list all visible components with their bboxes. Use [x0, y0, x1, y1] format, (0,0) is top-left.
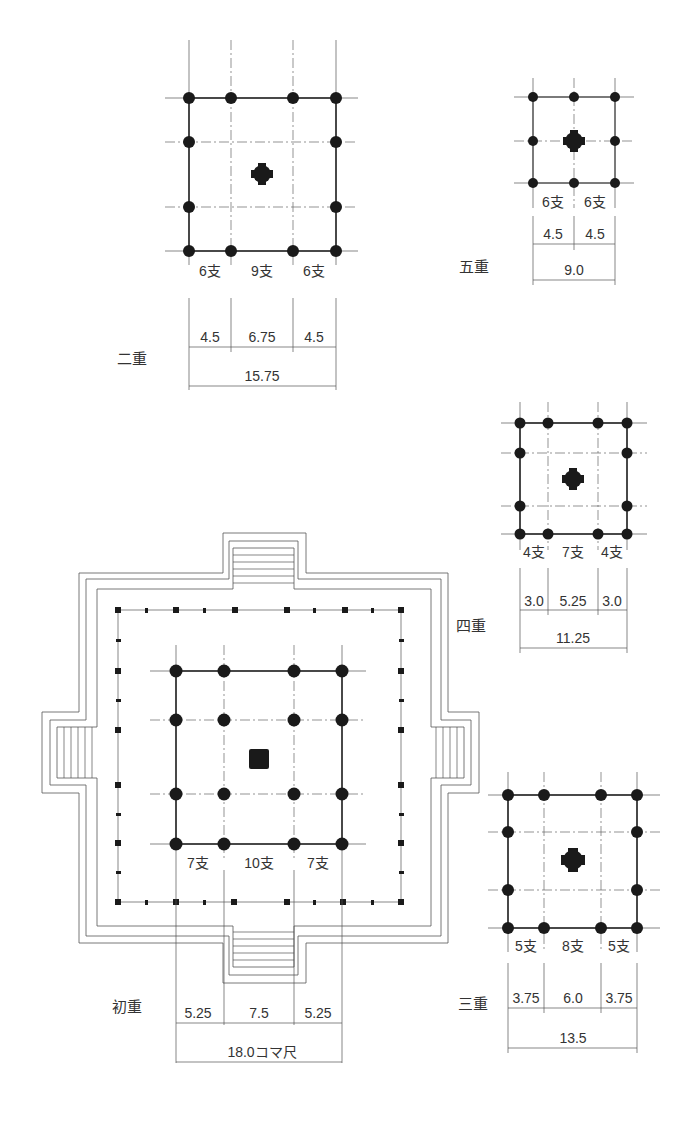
plan-first-story: 7支 10支 7支 5.25 7.5 5.25 18.0コマ尺 初重 — [42, 533, 479, 1063]
bay-label: 6支 — [303, 263, 325, 279]
dimension-value: 7.5 — [249, 1005, 269, 1021]
dimension-total: 13.5 — [559, 1030, 586, 1046]
plan-fifth-story: 6支 6支 4.5 4.5 9.0 五重 — [459, 78, 634, 285]
dimension-total: 9.0 — [564, 262, 584, 278]
central-pillar-icon — [251, 163, 273, 185]
dimension-value: 6.75 — [248, 329, 275, 345]
stairs-north — [233, 555, 294, 583]
bay-label: 7支 — [307, 855, 329, 871]
dimension-value: 4.5 — [304, 329, 324, 345]
dimension-total: 11.25 — [556, 630, 590, 646]
dimension-value: 4.5 — [585, 226, 605, 242]
central-pillar-icon — [561, 848, 585, 872]
dimension-value: 4.5 — [200, 329, 220, 345]
bay-label: 9支 — [251, 263, 273, 279]
dimension-value: 4.5 — [543, 226, 563, 242]
bay-label: 6支 — [199, 263, 221, 279]
story-label: 二重 — [117, 350, 147, 368]
bay-label: 10支 — [244, 855, 274, 871]
bay-label: 6支 — [542, 194, 564, 210]
central-pillar-icon — [562, 468, 584, 490]
central-pillar-icon — [563, 130, 585, 152]
pagoda-plans-diagram: 6支 9支 6支 4.5 6.75 4.5 15.75 二重 — [0, 0, 696, 1123]
dimension-value: 5.25 — [304, 1005, 331, 1021]
bay-label: 7支 — [562, 544, 584, 560]
central-pillar-base-icon — [249, 749, 269, 769]
dimension-value: 5.25 — [184, 1005, 211, 1021]
story-label: 初重 — [112, 998, 142, 1016]
story-label: 三重 — [458, 995, 488, 1013]
dimension-value: 3.0 — [524, 593, 544, 609]
story-label: 五重 — [459, 258, 489, 276]
stairs-west — [64, 727, 92, 778]
dimension-total: 15.75 — [244, 368, 279, 384]
dimension-value: 5.25 — [559, 593, 586, 609]
dimension-value: 6.0 — [563, 990, 583, 1006]
dimension-value: 3.75 — [605, 990, 632, 1006]
plan-second-story: 6支 9支 6支 4.5 6.75 4.5 15.75 二重 — [117, 40, 358, 390]
bay-label: 4支 — [523, 544, 545, 560]
stairs-south — [233, 932, 294, 960]
stairs-east — [436, 727, 457, 778]
bay-label: 5支 — [515, 938, 537, 954]
bay-label: 7支 — [187, 855, 209, 871]
plan-fourth-story: 4支 7支 4支 3.0 5.25 3.0 11.25 四重 — [456, 402, 647, 653]
bay-label: 8支 — [562, 938, 584, 954]
dimension-value: 3.0 — [602, 593, 622, 609]
dimension-total: 18.0コマ尺 — [227, 1044, 296, 1060]
bay-label: 4支 — [601, 544, 623, 560]
plan-third-story: 5支 8支 5支 3.75 6.0 3.75 13.5 三重 — [458, 772, 660, 1053]
bay-label: 5支 — [608, 938, 630, 954]
story-label: 四重 — [456, 617, 486, 635]
bay-label: 6支 — [584, 194, 606, 210]
dimension-value: 3.75 — [512, 990, 539, 1006]
